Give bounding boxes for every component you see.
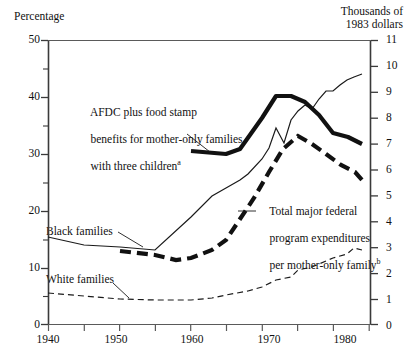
series-afdc-food-stamps xyxy=(191,96,362,154)
chart-canvas xyxy=(0,0,412,358)
series-black-families xyxy=(48,74,362,250)
axes-group xyxy=(41,40,378,331)
series-white-families xyxy=(48,248,362,300)
y-axis-right-ticks xyxy=(371,41,378,325)
chart-figure: Percentage Thousands of1983 dollars 50 4… xyxy=(0,0,412,358)
black-families-leader-line xyxy=(118,232,143,247)
annotation-leader-lines xyxy=(113,134,256,298)
afdc-leader-line xyxy=(187,134,210,152)
x-axis-ticks xyxy=(49,325,370,331)
white-families-leader-line xyxy=(113,283,129,298)
y-axis-left-minor-ticks xyxy=(43,69,48,297)
series-federal-expenditures xyxy=(120,136,362,260)
